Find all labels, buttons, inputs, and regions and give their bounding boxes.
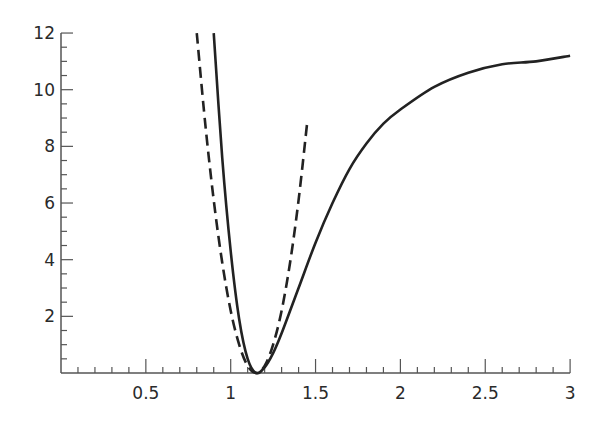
plot-area: [197, 33, 570, 373]
harmonic-curve-dashed: [197, 33, 307, 373]
x-tick-label: 1.5: [302, 383, 329, 403]
y-tick-label: 4: [44, 250, 55, 270]
x-tick-label: 3: [565, 383, 576, 403]
y-tick-label: 2: [44, 306, 55, 326]
y-tick-label: 10: [33, 80, 55, 100]
axes: 246810120.511.522.53: [33, 23, 575, 403]
potential-curve-solid: [214, 33, 570, 373]
y-tick-label: 8: [44, 136, 55, 156]
y-tick-label: 12: [33, 23, 55, 43]
x-tick-label: 2: [395, 383, 406, 403]
y-tick-label: 6: [44, 193, 55, 213]
x-tick-label: 0.5: [132, 383, 159, 403]
x-tick-label: 2.5: [472, 383, 499, 403]
morse-potential-chart: 246810120.511.522.53: [0, 0, 603, 427]
x-tick-label: 1: [225, 383, 236, 403]
